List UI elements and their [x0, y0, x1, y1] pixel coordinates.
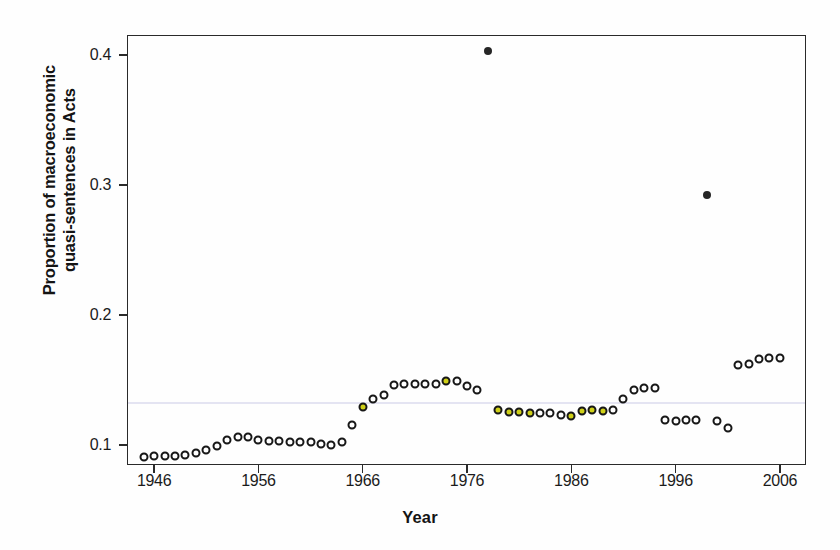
scatter-point	[421, 379, 430, 388]
reference-line	[128, 402, 805, 404]
scatter-point	[682, 416, 691, 425]
x-tick-mark	[571, 465, 572, 473]
scatter-point	[556, 410, 565, 419]
scatter-point	[264, 436, 273, 445]
y-tick-label: 0.2	[63, 306, 111, 324]
scatter-point	[619, 395, 628, 404]
y-tick-label: 0.3	[63, 176, 111, 194]
scatter-point	[577, 407, 586, 416]
scatter-point	[410, 380, 419, 389]
scatter-point	[734, 360, 743, 369]
scatter-point	[536, 408, 545, 417]
x-tick-mark	[675, 465, 676, 473]
x-tick-label: 2006	[745, 472, 815, 490]
scatter-point	[671, 416, 680, 425]
scatter-point	[692, 416, 701, 425]
x-tick-label: 1946	[119, 472, 189, 490]
x-tick-label: 1956	[223, 472, 293, 490]
scatter-point	[202, 445, 211, 454]
x-tick-mark	[466, 465, 467, 473]
x-tick-label: 1996	[641, 472, 711, 490]
y-tick-label: 0.4	[63, 46, 111, 64]
scatter-point	[640, 383, 649, 392]
scatter-point	[337, 438, 346, 447]
scatter-point	[390, 381, 399, 390]
y-tick-mark	[119, 314, 127, 315]
y-axis-title-line1: Proportion of macroeconomic	[39, 15, 59, 345]
x-tick-label: 1986	[536, 472, 606, 490]
scatter-point	[713, 416, 722, 425]
scatter-point	[400, 379, 409, 388]
scatter-point	[285, 437, 294, 446]
x-tick-label: 1976	[432, 472, 502, 490]
x-tick-mark	[258, 465, 259, 473]
scatter-point	[160, 452, 169, 461]
scatter-point	[609, 406, 618, 415]
scatter-point	[525, 408, 534, 417]
x-tick-mark	[362, 465, 363, 473]
scatter-point	[484, 47, 492, 55]
scatter-point	[775, 353, 784, 362]
scatter-point	[431, 379, 440, 388]
scatter-point	[223, 435, 232, 444]
scatter-point	[703, 191, 711, 199]
scatter-point	[723, 423, 732, 432]
scatter-point	[233, 433, 242, 442]
plot-area-frame	[127, 35, 806, 465]
scatter-point	[150, 452, 159, 461]
chart-figure: Proportion of macroeconomic quasi-senten…	[0, 0, 840, 550]
scatter-point	[296, 438, 305, 447]
scatter-point	[442, 377, 451, 386]
scatter-point	[661, 416, 670, 425]
scatter-point	[494, 405, 503, 414]
y-tick-mark	[119, 184, 127, 185]
scatter-point	[567, 412, 576, 421]
x-tick-mark	[779, 465, 780, 473]
scatter-point	[191, 448, 200, 457]
scatter-point	[348, 421, 357, 430]
y-tick-mark	[119, 444, 127, 445]
scatter-point	[473, 386, 482, 395]
scatter-point	[275, 437, 284, 446]
scatter-point	[546, 409, 555, 418]
y-tick-label: 0.1	[63, 436, 111, 454]
x-axis-title: Year	[0, 508, 840, 527]
scatter-point	[254, 435, 263, 444]
scatter-point	[463, 381, 472, 390]
x-tick-mark	[153, 465, 154, 473]
scatter-point	[358, 403, 367, 412]
scatter-point	[515, 408, 524, 417]
scatter-point	[181, 451, 190, 460]
scatter-point	[504, 407, 513, 416]
scatter-point	[306, 438, 315, 447]
scatter-point	[650, 383, 659, 392]
scatter-point	[598, 407, 607, 416]
x-tick-label: 1966	[328, 472, 398, 490]
scatter-point	[212, 442, 221, 451]
scatter-point	[327, 440, 336, 449]
scatter-point	[379, 391, 388, 400]
scatter-point	[452, 377, 461, 386]
scatter-point	[755, 355, 764, 364]
scatter-point	[744, 359, 753, 368]
scatter-point	[629, 386, 638, 395]
scatter-point	[317, 439, 326, 448]
scatter-point	[588, 406, 597, 415]
scatter-point	[369, 394, 378, 403]
scatter-point	[765, 354, 774, 363]
scatter-point	[243, 433, 252, 442]
y-tick-mark	[119, 54, 127, 55]
scatter-point	[139, 452, 148, 461]
scatter-point	[170, 451, 179, 460]
